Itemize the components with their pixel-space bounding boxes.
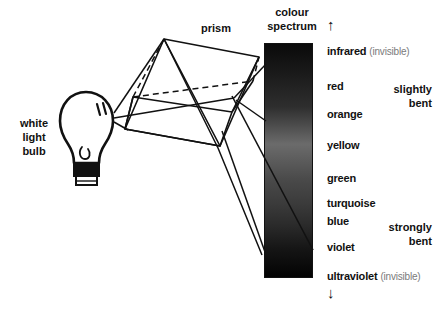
- refracted-ray-fan: [164, 39, 313, 255]
- spectrum-label-blue: blue: [327, 215, 349, 228]
- spectrum-label-text: blue: [327, 215, 349, 227]
- spectrum-label-note: (invisible): [380, 271, 420, 282]
- spectrum-label-violet: violet: [327, 241, 355, 254]
- spectrum-label-text: green: [327, 172, 356, 184]
- white-light-bulb-caption: white light bulb: [8, 116, 60, 158]
- spectrum-label-turquoise: turquoise: [327, 197, 375, 210]
- up-arrow-icon: ↑: [327, 18, 334, 31]
- bulb-caption-line3: bulb: [8, 144, 60, 158]
- incident-light-beam: [114, 39, 234, 130]
- slightly-bent-line1: slightly: [362, 82, 432, 96]
- spectrum-label-text: infrared: [327, 45, 366, 57]
- lightbulb-icon: [60, 92, 113, 185]
- spectrum-label-line1: colour: [264, 6, 320, 19]
- spectrum-label-text: violet: [327, 241, 355, 253]
- spectrum-label-text: orange: [327, 108, 362, 120]
- optics-dispersion-diagram: prism colour spectrum white light bulb ↑…: [0, 0, 437, 322]
- prism-label: prism: [190, 22, 242, 35]
- spectrum-label-ultraviolet: ultraviolet(invisible): [327, 270, 420, 283]
- slightly-bent-line2: bent: [362, 96, 432, 110]
- bulb-caption-line2: light: [8, 130, 60, 144]
- spectrum-label-text: turquoise: [327, 197, 375, 209]
- spectrum-label-line2: spectrum: [264, 20, 320, 33]
- spectrum-label-green: green: [327, 172, 356, 185]
- strongly-bent-line1: strongly: [362, 220, 432, 234]
- bulb-caption-line1: white: [8, 116, 60, 130]
- spectrum-label-red: red: [327, 80, 344, 93]
- spectrum-label-note: (invisible): [369, 46, 409, 57]
- spectrum-label-text: yellow: [327, 139, 359, 151]
- spectrum-label-orange: orange: [327, 108, 362, 121]
- spectrum-label-infrared: infrared(invisible): [327, 45, 409, 58]
- strongly-bent-line2: bent: [362, 234, 432, 248]
- spectrum-label-text: red: [327, 80, 344, 92]
- spectrum-label-yellow: yellow: [327, 139, 359, 152]
- spectrum-label-text: ultraviolet: [327, 270, 377, 282]
- down-arrow-icon: ↓: [327, 286, 334, 299]
